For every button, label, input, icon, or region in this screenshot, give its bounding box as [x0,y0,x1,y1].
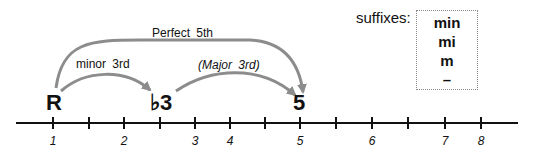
note-fifth: 5 [293,92,305,114]
note-flat-third: ♭3 [150,92,172,114]
axis-tick-label: 5 [297,135,304,147]
axis-tick-label: 1 [50,135,57,147]
major-3rd-arrow [176,73,295,95]
label-minor-3rd: minor 3rd [76,58,130,70]
axis-tick-label: 2 [121,135,128,147]
axis-tick-label: 8 [478,135,485,147]
axis-tick-label: 7 [442,135,449,147]
suffix-item: mi [417,32,477,51]
label-major-3rd: (Major 3rd) [198,59,260,71]
suffixes-box: min mi m – [416,10,478,90]
suffix-item: – [417,70,477,89]
note-root: R [46,92,62,114]
suffixes-title: suffixes: [356,10,411,25]
suffix-item: min [417,13,477,32]
axis-tick-label: 6 [369,135,376,147]
suffix-item: m [417,51,477,70]
axis-tick-label: 3 [192,135,199,147]
axis-tick-label: 4 [227,135,234,147]
label-perfect-5th: Perfect 5th [152,27,213,39]
minor-3rd-arrow [61,74,150,91]
